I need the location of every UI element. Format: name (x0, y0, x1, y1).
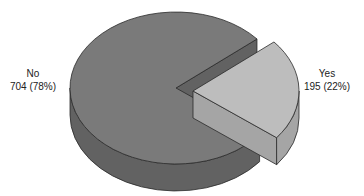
slice-label-yes-name: Yes (294, 67, 360, 80)
slice-label-no-name: No (2, 67, 64, 80)
slice-label-no-value: 704 (78%) (2, 80, 64, 93)
pie-chart (0, 0, 364, 196)
slice-label-no: No 704 (78%) (2, 67, 64, 93)
slice-label-yes-value: 195 (22%) (294, 80, 360, 93)
slice-label-yes: Yes 195 (22%) (294, 67, 360, 93)
